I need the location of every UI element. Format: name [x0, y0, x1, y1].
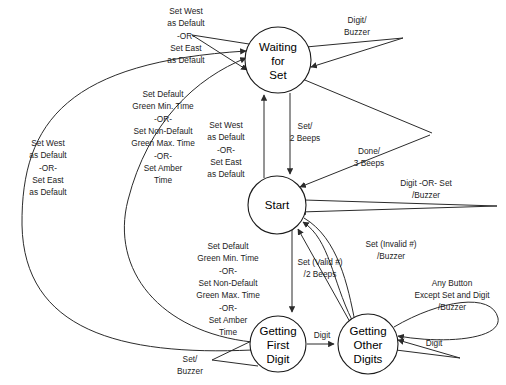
svg-text:Done/: Done/ — [358, 146, 381, 156]
edge-start-self-digit-or-set — [300, 200, 497, 212]
state-label-getting-first-digit-line1: Getting — [259, 325, 296, 337]
svg-text:Except Set and Digit: Except Set and Digit — [414, 290, 490, 300]
svg-text:as Default: as Default — [207, 132, 245, 142]
svg-text:as Default: as Default — [29, 187, 67, 197]
state-label-waiting-for-set-line2: for — [271, 55, 285, 67]
edge-far-left-loop-set-default — [22, 51, 252, 351]
edge-label-waiting-to-start-set-2beeps: Set/ 2 Beeps — [290, 121, 320, 143]
edge-label-far-left-loop-set-default: Set West as Default -OR- Set East as Def… — [29, 138, 67, 197]
edge-label-any-button-buzzer: Any Button Except Set and Digit /Buzzer — [414, 278, 490, 312]
svg-text:-OR-: -OR- — [154, 114, 172, 124]
svg-text:Green Min. Time: Green Min. Time — [197, 253, 259, 263]
svg-text:Set/: Set/ — [183, 354, 198, 364]
svg-text:Set East: Set East — [210, 157, 242, 167]
edge-label-first-to-other-digit: Digit — [314, 330, 331, 340]
svg-text:as Default: as Default — [29, 150, 67, 160]
svg-text:Set Default: Set Default — [142, 89, 184, 99]
state-getting-other-digits[interactable]: Getting Other Digits — [338, 314, 398, 374]
state-label-getting-other-digits-line3: Digits — [354, 353, 383, 365]
svg-text:Set West: Set West — [209, 120, 243, 130]
svg-text:Time: Time — [154, 175, 173, 185]
svg-text:Set Non-Default: Set Non-Default — [133, 126, 193, 136]
edge-waiting-self-digit-buzzer — [306, 38, 403, 67]
svg-text:Set (Invalid #): Set (Invalid #) — [365, 239, 416, 249]
edge-label-upper-curve-green: Set Default Green Min. Time -OR- Set Non… — [131, 89, 195, 185]
svg-text:Set Amber: Set Amber — [209, 315, 248, 325]
state-label-waiting-for-set-line3: Set — [269, 69, 287, 81]
state-getting-first-digit[interactable]: Getting First Digit — [250, 316, 306, 372]
svg-text:Set (Valid #): Set (Valid #) — [297, 257, 342, 267]
svg-text:Set Non-Default: Set Non-Default — [198, 278, 258, 288]
svg-text:2 Beeps: 2 Beeps — [290, 133, 320, 143]
state-start[interactable]: Start — [248, 176, 306, 234]
edge-label-waiting-self-set-default: Set West as Default -OR- Set East as Def… — [167, 6, 205, 65]
svg-text:as Default: as Default — [207, 169, 245, 179]
svg-text:as Default: as Default — [167, 18, 205, 28]
state-diagram-canvas: Waiting for Set Start Getting First Digi… — [0, 0, 506, 385]
svg-text:Set West: Set West — [31, 138, 65, 148]
svg-text:Time: Time — [219, 327, 238, 337]
state-machine-diagram: Waiting for Set Start Getting First Digi… — [0, 0, 506, 385]
svg-text:-OR-: -OR- — [177, 31, 195, 41]
svg-text:Buzzer: Buzzer — [344, 27, 370, 37]
edge-label-other-self-digit: Digit — [426, 338, 443, 348]
edge-label-set-invalid-buzzer: Set (Invalid #) /Buzzer — [365, 239, 416, 261]
svg-text:-OR-: -OR- — [39, 163, 57, 173]
svg-text:/Buzzer: /Buzzer — [412, 190, 440, 200]
edge-label-start-to-waiting-set-default: Set West as Default -OR- Set East as Def… — [207, 120, 245, 179]
svg-text:/Buzzer: /Buzzer — [377, 251, 405, 261]
edge-label-waiting-self-digit-buzzer: Digit/ Buzzer — [344, 15, 370, 37]
state-label-getting-other-digits-line1: Getting — [349, 325, 386, 337]
edge-label-start-self-digit-or-set: Digit -OR- Set /Buzzer — [400, 178, 452, 200]
svg-text:Set West: Set West — [169, 6, 203, 16]
svg-text:-OR-: -OR- — [217, 145, 235, 155]
edge-label-first-self-set-buzzer: Set/ Buzzer — [177, 354, 203, 376]
state-label-start: Start — [265, 199, 290, 211]
svg-text:3 Beeps: 3 Beeps — [354, 158, 384, 168]
state-label-getting-other-digits-line2: Other — [354, 339, 383, 351]
svg-text:Set/: Set/ — [298, 121, 313, 131]
svg-text:-OR-: -OR- — [219, 303, 237, 313]
svg-text:as Default: as Default — [167, 55, 205, 65]
svg-text:/2 Beeps: /2 Beeps — [304, 269, 337, 279]
state-waiting-for-set[interactable]: Waiting for Set — [245, 27, 311, 93]
svg-text:/Buzzer: /Buzzer — [438, 302, 466, 312]
svg-text:Digit/: Digit/ — [348, 15, 368, 25]
svg-text:Set East: Set East — [170, 43, 202, 53]
svg-text:-OR-: -OR- — [219, 266, 237, 276]
state-label-waiting-for-set-line1: Waiting — [259, 41, 297, 53]
svg-text:Green Max. Time: Green Max. Time — [196, 290, 260, 300]
state-label-getting-first-digit-line2: First — [267, 339, 290, 351]
svg-text:Green Max. Time: Green Max. Time — [131, 138, 195, 148]
svg-text:Digit: Digit — [426, 338, 443, 348]
edge-label-start-to-first-digit-green: Set Default Green Min. Time -OR- Set Non… — [196, 241, 260, 337]
svg-text:Digit: Digit — [314, 330, 331, 340]
svg-text:Set East: Set East — [32, 175, 64, 185]
svg-text:Green Min. Time: Green Min. Time — [132, 101, 194, 111]
svg-text:-OR-: -OR- — [154, 151, 172, 161]
svg-text:Buzzer: Buzzer — [177, 366, 203, 376]
svg-text:Digit -OR- Set: Digit -OR- Set — [400, 178, 452, 188]
svg-text:Set Amber: Set Amber — [144, 163, 183, 173]
svg-text:Any Button: Any Button — [432, 278, 473, 288]
svg-text:Set Default: Set Default — [207, 241, 249, 251]
state-label-getting-first-digit-line3: Digit — [266, 353, 290, 365]
edge-label-done-3beeps: Done/ 3 Beeps — [354, 146, 384, 168]
